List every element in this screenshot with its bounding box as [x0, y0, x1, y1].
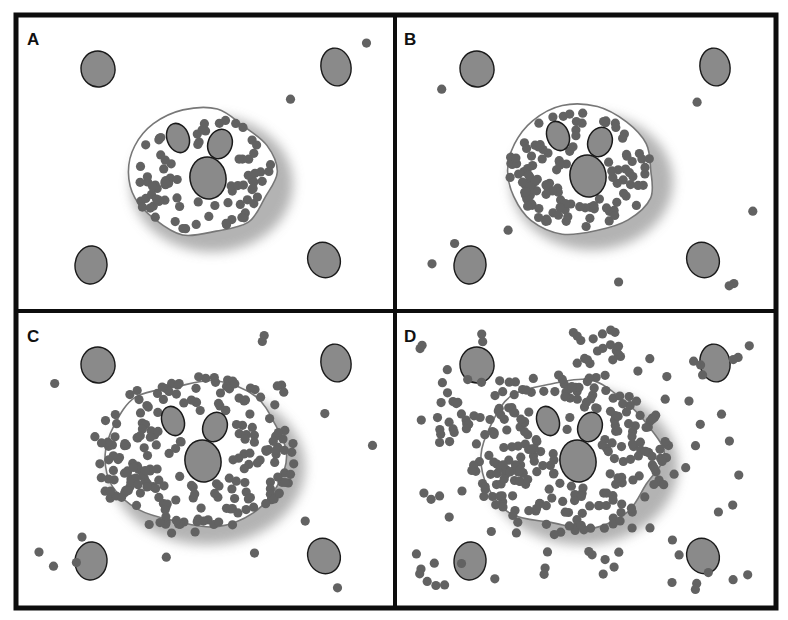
granule [602, 203, 611, 212]
granule [662, 372, 671, 381]
granule [197, 504, 206, 513]
granule [681, 463, 690, 472]
granule [229, 455, 238, 464]
granule [610, 563, 619, 572]
granule [489, 430, 498, 439]
granule [640, 163, 649, 172]
granule [435, 438, 444, 447]
granule [614, 412, 623, 421]
granule [536, 140, 545, 149]
granule [124, 486, 133, 495]
granule [601, 386, 610, 395]
granule [617, 442, 626, 451]
granule [472, 439, 481, 448]
granule [273, 473, 282, 482]
granule [504, 226, 513, 235]
granule [240, 478, 249, 487]
granule [146, 433, 155, 442]
granule [659, 480, 668, 489]
granule [578, 119, 587, 128]
granule [196, 406, 205, 415]
granule [728, 501, 737, 510]
granule [560, 392, 569, 401]
granule [522, 386, 531, 395]
granule [289, 459, 298, 468]
granule [617, 499, 626, 508]
granule [236, 200, 245, 209]
granule [522, 144, 531, 153]
granule [423, 577, 432, 586]
granule [210, 201, 219, 210]
granule [134, 395, 143, 404]
granule [159, 164, 168, 173]
granule [499, 443, 508, 452]
granule [511, 377, 520, 386]
granule [151, 484, 160, 493]
granule [230, 494, 239, 503]
granule [614, 548, 623, 557]
granule [506, 173, 515, 182]
granule [427, 495, 436, 504]
granule [725, 281, 734, 290]
granule [368, 441, 377, 450]
granule [250, 549, 259, 558]
granule [622, 407, 631, 416]
granule [172, 193, 181, 202]
granule [529, 374, 538, 383]
granule [507, 442, 516, 451]
granule [539, 387, 548, 396]
granule [49, 562, 58, 571]
granule [648, 452, 657, 461]
granule [178, 224, 187, 233]
granule [191, 527, 200, 536]
granule [145, 520, 154, 529]
granule [476, 413, 485, 422]
granule [270, 458, 279, 467]
granule [438, 378, 447, 387]
granule [628, 475, 637, 484]
granule [601, 371, 610, 380]
granule [261, 445, 270, 454]
granule [34, 548, 43, 557]
granule [545, 485, 554, 494]
granule [704, 568, 713, 577]
granule [542, 501, 551, 510]
granule [588, 550, 597, 559]
granule [514, 169, 523, 178]
granule [614, 277, 623, 286]
granule [136, 431, 145, 440]
granule [532, 504, 541, 513]
granule [252, 140, 261, 149]
granule [159, 481, 168, 490]
granule [647, 415, 656, 424]
granule [301, 517, 310, 526]
granule [104, 455, 113, 464]
granule [611, 123, 620, 132]
granule [191, 384, 200, 393]
granule [550, 530, 559, 539]
granule [567, 382, 576, 391]
granule [508, 511, 517, 520]
granule [532, 435, 541, 444]
granule [143, 451, 152, 460]
granule [198, 125, 207, 134]
granule [524, 408, 533, 417]
granule [658, 457, 667, 466]
granule [609, 496, 618, 505]
granule [430, 559, 439, 568]
granule [627, 504, 636, 513]
granule [563, 425, 572, 434]
granule [563, 212, 572, 221]
granule [153, 464, 162, 473]
granule [636, 438, 645, 447]
granule [431, 581, 440, 590]
granule [228, 520, 237, 529]
granule [484, 451, 493, 460]
granule [101, 416, 110, 425]
granule [558, 497, 567, 506]
granule [568, 142, 577, 151]
granule [192, 220, 201, 229]
granule [270, 400, 279, 409]
granule [260, 331, 269, 340]
granule [443, 365, 452, 374]
